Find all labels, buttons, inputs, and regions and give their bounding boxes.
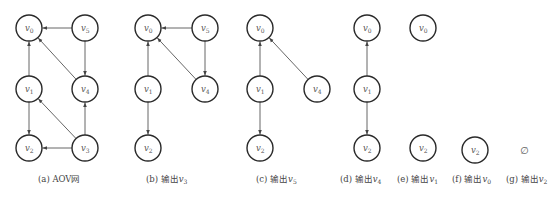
caption-label: (d) 输出 — [340, 174, 373, 184]
caption-label: (g) 输出 — [506, 174, 539, 184]
caption-label: (a) AOV网 — [38, 174, 81, 184]
caption-label: (c) 输出 — [256, 174, 288, 184]
caption-e: (e) 输出v1 — [397, 172, 438, 185]
caption-variable: v1 — [429, 174, 438, 184]
node-v4: v4 — [304, 76, 330, 102]
node-v1: v1 — [16, 76, 42, 102]
node-v0: v0 — [16, 15, 42, 41]
node-v2: v2 — [354, 135, 380, 161]
node-v4: v4 — [192, 76, 218, 102]
node-v5: v5 — [192, 15, 218, 41]
node-v1: v1 — [135, 76, 161, 102]
edge-v3-to-v1 — [38, 99, 76, 139]
edge-v4-to-v0 — [157, 38, 196, 80]
caption-variable: v4 — [373, 174, 382, 184]
node-v0: v0 — [410, 15, 436, 41]
node-v2: v2 — [247, 135, 273, 161]
caption-c: (c) 输出v5 — [256, 172, 297, 185]
node-v2: v2 — [16, 135, 42, 161]
node-v1: v1 — [354, 76, 380, 102]
caption-variable: v0 — [482, 174, 491, 184]
caption-f: (f) 输出v0 — [452, 172, 491, 185]
caption-label: (b) 输出 — [146, 174, 179, 184]
node-v0: v0 — [247, 15, 273, 41]
caption-a: (a) AOV网 — [38, 172, 81, 184]
node-v3: v3 — [72, 135, 98, 161]
caption-variable: v5 — [288, 174, 297, 184]
aov-topological-sort-diagram: v0v5v1v4v2v3v0v5v1v4v2v0v1v4v2v0v1v2v0v2… — [0, 0, 558, 198]
caption-variable: v2 — [539, 174, 548, 184]
caption-variable: v3 — [179, 174, 188, 184]
node-v1: v1 — [247, 76, 273, 102]
node-v4: v4 — [72, 76, 98, 102]
empty-set-symbol: ∅ — [520, 145, 529, 156]
node-v0: v0 — [354, 15, 380, 41]
edge-v4-to-v0 — [38, 38, 76, 79]
node-v2: v2 — [462, 137, 488, 163]
node-v0: v0 — [135, 15, 161, 41]
node-v5: v5 — [72, 15, 98, 41]
caption-d: (d) 输出v4 — [340, 172, 381, 185]
nodes-layer: v0v5v1v4v2v3v0v5v1v4v2v0v1v4v2v0v1v2v0v2… — [16, 15, 488, 163]
caption-g: (g) 输出v2 — [506, 172, 547, 185]
node-v2: v2 — [135, 135, 161, 161]
node-v2: v2 — [410, 135, 436, 161]
caption-label: (e) 输出 — [397, 174, 429, 184]
edge-v4-to-v0 — [269, 38, 308, 80]
caption-b: (b) 输出v3 — [146, 172, 187, 185]
caption-label: (f) 输出 — [452, 174, 482, 184]
